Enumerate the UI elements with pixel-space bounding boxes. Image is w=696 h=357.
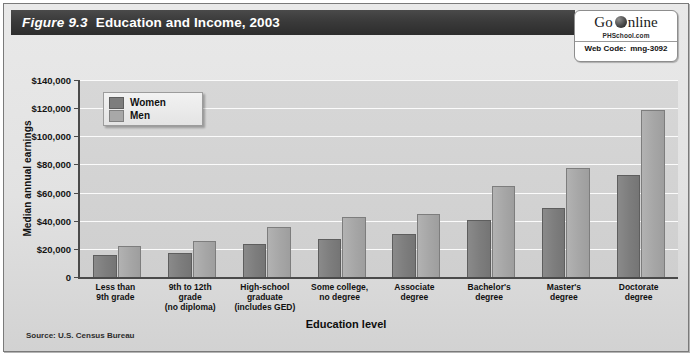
bar-women [318, 239, 342, 277]
bar-group [93, 246, 141, 277]
bar-men [417, 214, 441, 277]
x-axis-category-line: Some college, [298, 282, 382, 292]
legend-label-women: Women [130, 97, 166, 108]
bar-women [392, 234, 416, 277]
bar-women [243, 244, 267, 277]
legend-swatch-women [109, 97, 124, 109]
x-axis-category-label: Associatedegree [372, 282, 456, 302]
x-axis-category-line: no degree [298, 292, 382, 302]
online-text: nline [628, 14, 658, 31]
x-axis-category-line: grade [148, 292, 232, 302]
x-axis-category-label: Less than9th grade [73, 282, 157, 302]
y-axis-tick [74, 277, 80, 278]
web-code-label: Web Code: [585, 44, 627, 53]
y-axis-tick-label: $40,000 [37, 215, 71, 226]
bar-women [467, 220, 491, 277]
bar-men [492, 186, 516, 277]
x-axis-category-label: Doctoratedegree [597, 282, 681, 302]
bar-group [617, 110, 665, 277]
figure-number: Figure 9.3 [22, 15, 88, 30]
figure-title: Education and Income, 2003 [96, 15, 280, 30]
phschool-site-label: PHSchool.com [602, 32, 649, 39]
source-note: Source: U.S. Census Bureau [26, 331, 134, 340]
x-axis-category-line: 9th grade [73, 292, 157, 302]
x-axis-category-line: degree [447, 292, 531, 302]
x-axis-category-line: degree [522, 292, 606, 302]
legend-label-men: Men [130, 110, 150, 121]
bar-men [267, 227, 291, 277]
chart-legend: Women Men [103, 92, 203, 126]
x-axis-category-line: degree [597, 292, 681, 302]
x-axis-category-line: Less than [73, 282, 157, 292]
x-axis-category-line: Bachelor's [447, 282, 531, 292]
web-code-row: Web Code: mng-3092 [575, 41, 677, 53]
y-axis-tick-label: $100,000 [31, 131, 71, 142]
x-axis-category-line: Associate [372, 282, 456, 292]
globe-icon [615, 16, 627, 28]
figure-title-bar: Figure 9.3 Education and Income, 2003 [11, 10, 575, 35]
bar-group [542, 168, 590, 277]
x-axis-category-label: Some college,no degree [298, 282, 382, 302]
bar-men [566, 168, 590, 277]
bar-group [392, 214, 440, 277]
legend-item-women: Women [109, 96, 197, 109]
x-axis-category-line: (no diploma) [148, 302, 232, 312]
go-online-wordmark: Go nline [594, 13, 657, 31]
y-axis-tick-label: 0 [66, 272, 71, 283]
bar-group [243, 227, 291, 277]
go-text: Go [594, 14, 612, 31]
x-axis-category-label: Bachelor'sdegree [447, 282, 531, 302]
bar-group [168, 241, 216, 277]
bar-men [118, 246, 142, 277]
x-axis-category-line: 9th to 12th [148, 282, 232, 292]
x-axis-category-label: Master'sdegree [522, 282, 606, 302]
x-axis-category-label: High-schoolgraduate(includes GED) [223, 282, 307, 312]
y-axis-tick-label: $140,000 [31, 75, 71, 86]
x-axis-category-line: Doctorate [597, 282, 681, 292]
x-axis-category-line: Master's [522, 282, 606, 292]
bar-men [342, 217, 366, 277]
bar-men [193, 241, 217, 277]
go-online-badge[interactable]: Go nline PHSchool.com Web Code: mng-3092 [574, 10, 678, 62]
bar-group [318, 217, 366, 277]
bar-women [542, 208, 566, 277]
x-axis-category-line: (includes GED) [223, 302, 307, 312]
x-axis-category-line: degree [372, 292, 456, 302]
y-axis-tick-label: $20,000 [37, 243, 71, 254]
y-axis-tick-label: $60,000 [37, 187, 71, 198]
bar-women [93, 255, 117, 277]
legend-swatch-men [109, 110, 124, 122]
x-axis-category-label: 9th to 12thgrade(no diploma) [148, 282, 232, 312]
figure-panel: Figure 9.3 Education and Income, 2003 Go… [3, 3, 689, 352]
y-axis-tick-label: $120,000 [31, 103, 71, 114]
x-axis-category-line: graduate [223, 292, 307, 302]
x-axis-category-line: High-school [223, 282, 307, 292]
bar-women [168, 253, 192, 277]
y-axis-tick-label: $80,000 [37, 159, 71, 170]
x-axis-title: Education level [4, 318, 688, 330]
web-code-value: mng-3092 [630, 44, 667, 53]
bar-men [641, 110, 665, 277]
legend-item-men: Men [109, 109, 197, 122]
bar-group [467, 186, 515, 277]
bar-women [617, 175, 641, 277]
